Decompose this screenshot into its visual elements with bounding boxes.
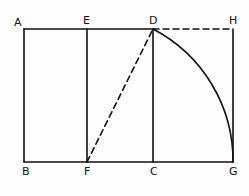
diagram-canvas: A E D H B F C G: [0, 0, 249, 196]
dashed-line-FD: [87, 29, 153, 162]
label-B: B: [22, 166, 30, 177]
label-H: H: [229, 15, 237, 26]
label-D: D: [149, 15, 157, 26]
label-A: A: [14, 17, 22, 28]
construction-drawing: [0, 0, 249, 196]
label-E: E: [83, 15, 90, 26]
label-F: F: [84, 166, 90, 177]
label-C: C: [150, 166, 158, 177]
arc-DG: [153, 29, 233, 162]
label-G: G: [229, 166, 238, 177]
